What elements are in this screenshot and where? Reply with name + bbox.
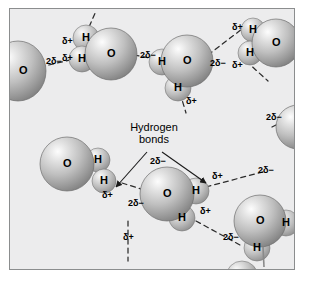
atom-label-O: O (183, 55, 192, 66)
charge-label-negative: 2δ− (46, 57, 62, 66)
atom-label-H: H (78, 53, 86, 64)
charge-label-positive: δ+ (123, 233, 134, 242)
atom-label-H: H (94, 154, 102, 165)
molecule-bottom-right-shape (234, 195, 295, 267)
atom-label-O: O (63, 158, 72, 169)
hydrogen-bonds-callout: Hydrogen bonds (108, 121, 200, 146)
charge-label-positive: δ+ (102, 191, 113, 200)
atom-label-H: H (282, 217, 290, 228)
atom-label-O: O (163, 188, 172, 199)
atom-label-H: H (253, 242, 261, 253)
atom-label-O: O (107, 48, 116, 59)
callout-line-1: Hydrogen (108, 121, 200, 133)
atom-label-H: H (100, 175, 108, 186)
atom-label-H: H (249, 24, 257, 35)
charge-label-negative: 2δ− (150, 157, 166, 166)
atom-label-O: O (256, 215, 265, 226)
molecule-top-right-shape (238, 18, 295, 67)
charge-label-negative: 2δ− (128, 199, 144, 208)
atom-label-H: H (82, 32, 90, 43)
atom-label-H: H (158, 56, 166, 67)
molecule-scene: Hydrogen bonds O H H O H H O H O H O H H… (10, 9, 294, 269)
charge-label-negative: 2δ− (258, 166, 274, 175)
figure-container: Hydrogen bonds O H H O H H O H O H O H H… (0, 0, 316, 287)
molecule-left-edge-shape (10, 41, 46, 101)
atom-label-H: H (174, 82, 182, 93)
charge-label-positive: δ+ (186, 97, 197, 106)
atom-label-O: O (19, 65, 28, 76)
charge-label-positive: δ+ (62, 37, 73, 46)
charge-label-positive: δ+ (212, 172, 223, 181)
atom-label-O: O (272, 37, 281, 48)
atom-label-H: H (246, 47, 254, 58)
charge-label-negative: 2δ− (266, 113, 282, 122)
atom-label-H: H (178, 212, 186, 223)
callout-line-2: bonds (108, 133, 200, 145)
charge-label-positive: δ+ (232, 23, 243, 32)
charge-label-positive: δ+ (200, 207, 211, 216)
atom-label-H: H (192, 185, 200, 196)
charge-label-positive: δ+ (232, 61, 243, 70)
charge-label-negative: 2δ− (140, 51, 156, 60)
charge-label-negative: 2δ− (210, 59, 226, 68)
molecule-bottom-edge-shape (226, 261, 258, 270)
diagram-frame: Hydrogen bonds O H H O H H O H O H O H H… (9, 8, 295, 270)
charge-label-negative: 2δ− (223, 233, 239, 242)
molecule-mid-center-shape (140, 167, 209, 231)
charge-label-positive: δ+ (62, 54, 73, 63)
